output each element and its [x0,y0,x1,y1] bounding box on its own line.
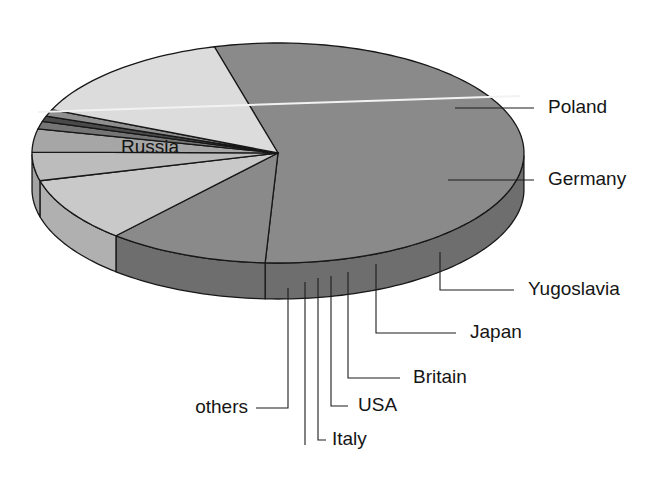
slice-label-italy: Italy [332,428,367,449]
pie-chart-svg: Russia Poland Germany Yugoslavia Japan B… [0,0,668,479]
pie-chart-figure: Russia Poland Germany Yugoslavia Japan B… [0,0,668,479]
slice-label-japan: Japan [470,321,522,342]
slice-label-usa: USA [358,394,397,415]
slice-label-germany: Germany [548,168,627,189]
slice-label-russia: Russia [121,136,180,157]
slice-label-others: others [195,396,248,417]
pie-slices [32,43,524,263]
slice-label-poland: Poland [548,96,607,117]
slice-label-britain: Britain [413,366,467,387]
slice-label-yugoslavia: Yugoslavia [528,278,620,299]
